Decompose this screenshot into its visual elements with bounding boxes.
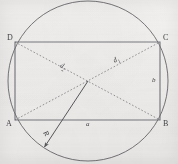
side-label-b: b [152,76,156,84]
vertex-label-c: C [163,33,169,42]
side-label-a: a [86,120,90,128]
vertex-label-d: D [7,33,13,42]
vertex-label-a: A [6,119,12,128]
geometry-figure: D C A B a b d2 d1 R [0,0,178,164]
vertex-label-b: B [163,119,169,128]
radius-segment [45,81,89,147]
